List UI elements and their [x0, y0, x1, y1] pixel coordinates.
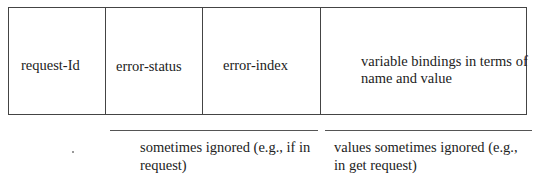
annotation-error-fields: sometimes ignored (e.g., if in request)	[140, 138, 320, 174]
field-request-id: request-Id	[9, 8, 106, 114]
stray-mark	[72, 151, 74, 153]
field-label: request-Id	[21, 57, 80, 74]
pdu-field-table: request-Id error-status error-index vari…	[8, 7, 527, 115]
field-label: variable bindings in terms of name and v…	[361, 53, 531, 87]
field-variable-bindings: variable bindings in terms of name and v…	[321, 8, 526, 114]
field-error-index: error-index	[203, 8, 321, 114]
field-label: error-index	[223, 57, 288, 74]
field-label: error-status	[116, 58, 182, 75]
annotation-bracket-line-error-fields	[110, 130, 318, 131]
field-error-status: error-status	[106, 8, 203, 114]
annotation-bindings: values sometimes ignored (e.g., in get r…	[334, 138, 524, 174]
annotation-bracket-line-bindings	[325, 130, 532, 131]
